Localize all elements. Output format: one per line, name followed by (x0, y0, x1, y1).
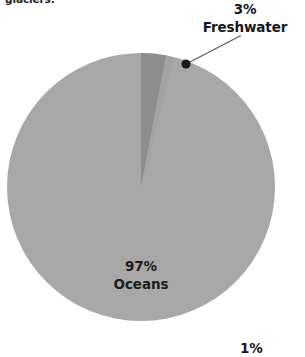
freshwater-percent: 3% (186, 1, 304, 19)
freshwater-name: Freshwater (186, 19, 304, 37)
pie-chart-figure: glaciers. 3% Freshwater 97% Oceans 1% (0, 0, 305, 357)
oceans-name: Oceans (88, 275, 194, 293)
freshwater-callout-label: 3% Freshwater (186, 1, 304, 37)
callout-leader-line (187, 36, 241, 64)
other-percent-label: 1% (240, 340, 263, 356)
callout-dot-icon (181, 59, 190, 68)
oceans-slice-label: 97% Oceans (88, 257, 194, 293)
pie-chart-svg (0, 0, 305, 357)
oceans-percent: 97% (88, 257, 194, 275)
